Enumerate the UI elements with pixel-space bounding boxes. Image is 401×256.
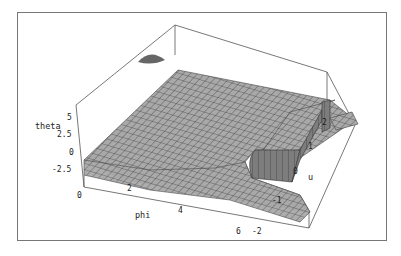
- x-tick-2: 2: [127, 184, 132, 193]
- z-tick-neg2.5: -2.5: [52, 165, 71, 174]
- z-axis: 5 2.5 0 -2.5 theta: [35, 113, 74, 174]
- z-tick-2.5: 2.5: [57, 130, 72, 139]
- x-tick-0: 0: [77, 191, 82, 200]
- y-tick-1: 1: [308, 142, 313, 151]
- z-tick-0: 0: [69, 148, 74, 157]
- y-tick-neg1: -1: [272, 196, 282, 205]
- surface-mesh: [84, 54, 358, 222]
- x-tick-4: 4: [178, 206, 183, 215]
- x-axis-label: phi: [135, 210, 150, 220]
- x-tick-6: 6: [236, 227, 241, 236]
- z-tick-5: 5: [67, 113, 72, 122]
- surface-plot: 5 2.5 0 -2.5 theta 0 2 4 6 phi 2 1 0 -1 …: [0, 0, 401, 256]
- z-axis-label: theta: [35, 121, 61, 131]
- y-tick-2: 2: [322, 118, 327, 127]
- y-tick-0: 0: [293, 167, 298, 176]
- y-axis-label: u: [308, 172, 313, 182]
- y-tick-neg2: -2: [252, 227, 262, 236]
